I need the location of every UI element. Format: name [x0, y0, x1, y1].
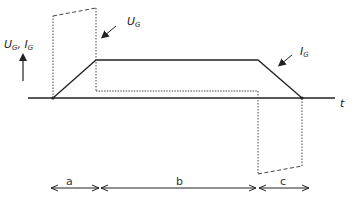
gate-current-curve [53, 60, 302, 98]
switching-diagram: t UG, IG UG IG a b c [0, 0, 354, 200]
ig-label: IG [300, 45, 309, 59]
time-axis-label: t [340, 97, 345, 110]
gate-voltage-top [53, 8, 96, 16]
ig-pointer-arrow-icon [281, 55, 292, 64]
interval-c-label: c [280, 175, 286, 188]
gate-voltage-bottom [258, 166, 302, 174]
ug-label: UG [127, 15, 141, 29]
interval-a-label: a [66, 175, 73, 188]
ug-pointer-arrow-icon [104, 26, 116, 36]
interval-b-label: b [176, 175, 183, 188]
y-axis-label: UG, IG [4, 38, 34, 52]
